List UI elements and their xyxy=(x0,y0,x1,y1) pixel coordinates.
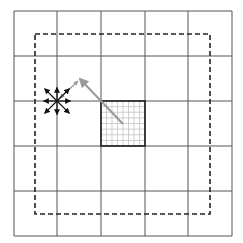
eight-direction-arrows-icon xyxy=(43,87,70,114)
grid-diagram xyxy=(0,0,243,243)
